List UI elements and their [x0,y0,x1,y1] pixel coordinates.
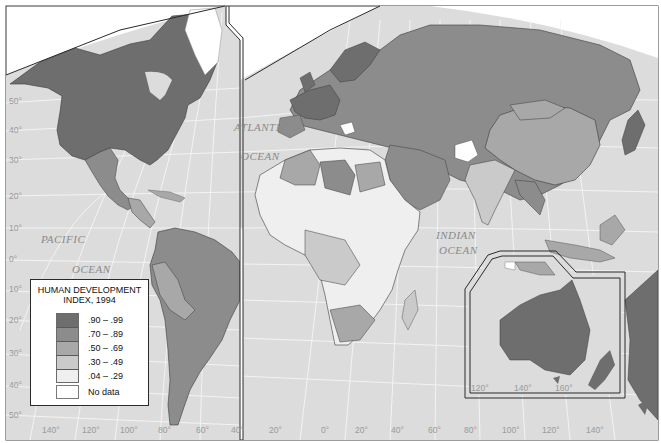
svg-text:60°: 60° [428,425,441,435]
svg-text:140°: 140° [586,425,604,435]
legend-swatch [56,341,79,355]
svg-text:80°: 80° [158,425,171,435]
svg-text:60°: 60° [196,425,209,435]
legend-swatch [56,313,79,327]
indian-ocean-label: OCEAN [439,244,478,256]
svg-text:140°: 140° [514,383,532,393]
pacific-label: PACIFIC [40,233,85,245]
legend: HUMAN DEVELOPMENT INDEX, 1994 .90 – .99 … [30,279,149,406]
svg-text:20°: 20° [269,425,282,435]
svg-text:80°: 80° [464,425,477,435]
svg-text:10°: 10° [9,223,22,233]
svg-text:100°: 100° [120,425,138,435]
svg-text:20°: 20° [9,191,22,201]
svg-text:40°: 40° [9,380,22,390]
legend-swatch [56,385,79,399]
svg-text:120°: 120° [82,425,100,435]
eastern-hemisphere-panel [240,6,658,440]
svg-text:40°: 40° [231,425,244,435]
svg-text:30°: 30° [9,155,22,165]
indian-label: INDIAN [435,229,476,241]
svg-text:20°: 20° [355,425,368,435]
svg-text:100°: 100° [502,425,520,435]
atlantic-ocean-label: OCEAN [241,150,280,162]
legend-item: .50 – .69 [56,341,123,355]
svg-text:50°: 50° [9,410,22,420]
legend-swatch [56,327,79,341]
legend-item: .90 – .99 [56,313,123,327]
legend-item: .70 – .89 [56,327,123,341]
svg-text:40°: 40° [9,125,22,135]
legend-swatch [56,355,79,369]
svg-text:140°: 140° [42,425,60,435]
svg-text:160°: 160° [555,383,573,393]
inset-longitude-ticks: 120° 140° 160° [471,383,573,393]
svg-text:20°: 20° [9,315,22,325]
legend-title: HUMAN DEVELOPMENT INDEX, 1994 [31,285,148,305]
world-hdi-map: ATLANTIC OCEAN PACIFIC OCEAN INDIAN OCEA… [0,0,661,443]
svg-text:0°: 0° [9,254,17,264]
svg-text:40°: 40° [391,425,404,435]
svg-text:0°: 0° [321,425,329,435]
svg-text:120°: 120° [471,383,489,393]
svg-text:10°: 10° [9,284,22,294]
svg-text:50°: 50° [9,96,22,106]
pacific-ocean-label: OCEAN [72,263,111,275]
legend-item: .30 – .49 [56,355,123,369]
svg-text:30°: 30° [9,348,22,358]
legend-swatch [56,369,79,383]
legend-item: .04 – .29 [56,369,123,383]
atlantic-label: ATLANTIC [233,121,288,133]
svg-text:120°: 120° [542,425,560,435]
legend-item-no-data: No data [56,385,120,399]
